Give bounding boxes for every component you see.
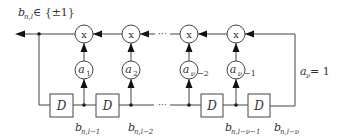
tap-label-3: b n,l−ν−1 — [225, 121, 260, 136]
delay-3: D — [201, 94, 223, 117]
multiplier-4: x — [227, 25, 245, 43]
svg-text:a: a — [78, 63, 85, 76]
tap-label-2: b n,l−2 — [128, 121, 154, 136]
top-ellipsis: ··· — [158, 29, 167, 39]
output-arrow-icon — [15, 31, 25, 38]
coefficient-a-nu-minus-2: a ν −2 — [180, 61, 209, 79]
svg-text:D: D — [102, 99, 113, 113]
svg-text:x: x — [233, 29, 239, 40]
coefficient-a1: a 1 — [75, 61, 93, 79]
svg-text:n,l−2: n,l−2 — [134, 128, 154, 136]
svg-text:x: x — [81, 29, 87, 40]
svg-text:a: a — [230, 63, 237, 76]
svg-text:n,l−ν: n,l−ν — [280, 128, 300, 136]
coefficient-a2: a 2 — [122, 61, 140, 79]
bottom-ellipsis: ··· — [158, 100, 167, 110]
delay-1: D — [50, 94, 73, 117]
svg-text:2: 2 — [133, 70, 137, 78]
delay-4: D — [248, 94, 270, 117]
arrow-into-m4-icon — [245, 31, 254, 38]
svg-text:ν: ν — [191, 70, 196, 78]
svg-text:a: a — [183, 63, 190, 76]
arrow-into-m1-icon — [93, 31, 102, 38]
output-label: b n,l ∈ {±1} — [18, 6, 75, 21]
svg-text:= 1: = 1 — [310, 65, 330, 78]
multiplier-2: x — [122, 25, 140, 43]
svg-text:a: a — [125, 63, 132, 76]
arrow-into-m3-icon — [198, 31, 207, 38]
feedback-label: a ν = 1 — [300, 65, 330, 80]
svg-text:1: 1 — [86, 70, 90, 78]
svg-text:x: x — [186, 29, 192, 40]
svg-text:n,l: n,l — [24, 13, 33, 21]
top-signal-path — [15, 31, 295, 38]
svg-text:D: D — [56, 99, 67, 113]
svg-text:∈ {±1}: ∈ {±1} — [33, 6, 75, 19]
shift-register-diagram: ··· ··· — [0, 0, 353, 139]
delay-2: D — [96, 94, 119, 117]
svg-text:n,l−1: n,l−1 — [81, 128, 100, 136]
svg-text:D: D — [253, 99, 264, 113]
multiplier-1: x — [75, 25, 93, 43]
svg-text:ν: ν — [238, 70, 243, 78]
right-feedback-path — [270, 34, 295, 106]
arrow-into-m2-icon — [140, 31, 149, 38]
multiplier-3: x — [180, 25, 198, 43]
svg-text:−2: −2 — [197, 69, 209, 78]
tap-label-4: b n,l−ν — [274, 121, 300, 136]
tap-label-1: b n,l−1 — [75, 121, 100, 136]
svg-text:D: D — [206, 99, 217, 113]
svg-text:n,l−ν−1: n,l−ν−1 — [231, 128, 260, 136]
coefficient-a-nu-minus-1: a ν −1 — [227, 61, 256, 79]
svg-text:−1: −1 — [244, 69, 256, 78]
svg-text:x: x — [128, 29, 134, 40]
